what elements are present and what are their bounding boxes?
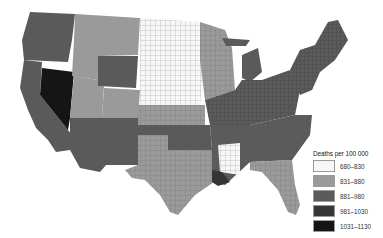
legend-item: 680–830 [313,159,383,173]
legend-title: Deaths per 100 000 [313,150,383,157]
legend-item: 881–980 [313,189,383,203]
legend-swatch [313,160,335,172]
legend-swatch [313,205,335,217]
legend-label: 881–980 [340,193,365,200]
legend-item: 981–1030 [313,204,383,218]
region-wyoming [98,56,138,88]
legend-label: 680–830 [340,163,365,170]
region-colorado [102,88,140,118]
legend-label: 831–880 [340,178,365,185]
legend-swatch [313,220,335,232]
legend-item: 1031–1130 [313,219,383,233]
legend: Deaths per 100 000 680–830 831–880 881–9… [313,150,383,234]
legend-label: 981–1030 [340,208,368,215]
region-michigan-up [222,38,250,46]
legend-swatch [313,190,335,202]
legend-swatch [313,175,335,187]
region-southwest [70,118,138,172]
region-pacific-northwest [22,12,75,62]
legend-label: 1031–1130 [340,223,371,230]
region-michigan [242,48,262,82]
legend-item: 831–880 [313,174,383,188]
